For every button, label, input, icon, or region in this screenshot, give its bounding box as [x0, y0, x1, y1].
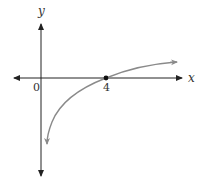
x-axis-label: x	[188, 71, 195, 85]
function-curve	[47, 62, 176, 144]
x-intercept-point	[104, 76, 109, 81]
y-axis-label: y	[37, 4, 45, 18]
origin-label: 0	[33, 81, 40, 94]
graph: y x 0 4	[0, 0, 200, 187]
intercept-label: 4	[103, 81, 110, 94]
